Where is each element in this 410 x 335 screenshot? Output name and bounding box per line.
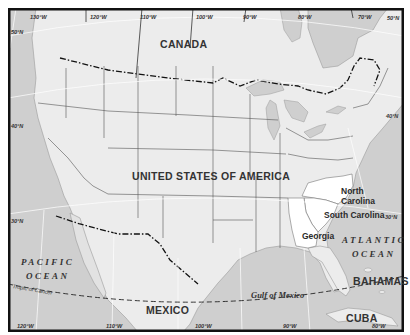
label-lon-bottom-100w: 100°W: [195, 324, 212, 330]
label-pacific-2: OCEAN: [26, 272, 70, 281]
label-gulf-of-mexico: Gulf of Mexico: [251, 291, 304, 300]
label-bahamas: BAHAMAS: [353, 276, 409, 287]
label-lon-top-80w: 80°W: [298, 15, 312, 21]
label-lon-bottom-110w: 110°W: [106, 324, 122, 330]
label-usa: UNITED STATES OF AMERICA: [132, 171, 290, 182]
label-lat-left-30n: 30°N: [11, 219, 23, 225]
label-pacific-1: PACIFIC: [21, 258, 74, 267]
label-lat-right-30n: 30°N: [385, 215, 397, 221]
label-lon-top-70w: 70°W: [358, 15, 372, 21]
label-lon-bottom-120w: 120°W: [17, 324, 34, 330]
label-atlantic-2: OCEAN: [352, 250, 396, 259]
label-mexico: MEXICO: [146, 305, 189, 316]
label-cuba: CUBA: [346, 313, 378, 324]
label-lat-right-50n: 50°N: [387, 16, 399, 22]
label-north-carolina-2: Carolina: [341, 197, 375, 206]
map-frame: CANADA UNITED STATES OF AMERICA MEXICO B…: [8, 8, 404, 332]
label-lon-top-90w: 90°W: [243, 15, 257, 21]
label-lat-right-40n: 40°N: [386, 114, 398, 120]
label-lon-bottom-90w: 90°W: [283, 324, 297, 330]
label-lat-left-50n: 50°N: [11, 30, 23, 36]
label-lon-top-130w: 130°W: [30, 15, 47, 21]
label-south-carolina: South Carolina: [324, 211, 384, 220]
label-north-carolina-1: North: [341, 187, 364, 196]
label-georgia: Georgia: [302, 232, 334, 241]
label-lon-top-120w: 120°W: [90, 15, 107, 21]
label-lat-left-40n: 40°N: [11, 124, 23, 130]
label-canada: CANADA: [160, 39, 207, 50]
label-lon-top-110w: 110°W: [140, 15, 156, 21]
label-atlantic-1: ATLANTIC: [342, 236, 406, 245]
label-lon-top-100w: 100°W: [196, 15, 213, 21]
label-lon-bottom-80w: 80°W: [372, 324, 386, 330]
